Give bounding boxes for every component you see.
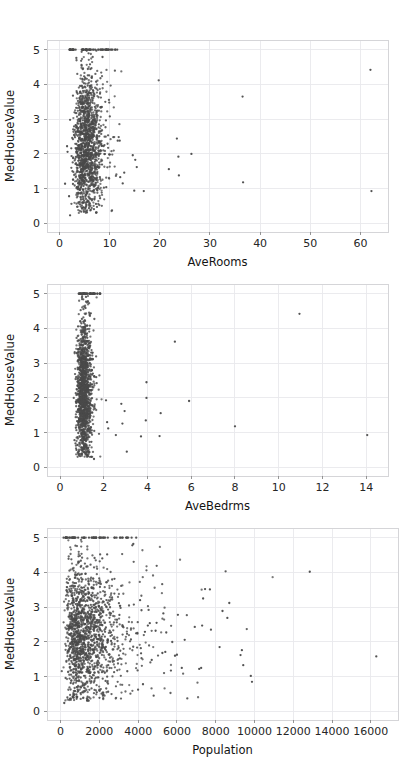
y-tick-label: 3 — [33, 357, 40, 370]
scatter-panel-avebedrms: 02468101214012345AveBedrmsMedHouseValue — [0, 262, 413, 512]
x-tick-label: 50 — [303, 237, 317, 250]
x-axis-title: Population — [192, 743, 252, 757]
y-tick-label: 5 — [33, 44, 40, 57]
y-axis-title: MedHouseValue — [3, 90, 17, 182]
x-tick-label: 14000 — [315, 725, 350, 738]
y-tick-label: 5 — [33, 288, 40, 301]
x-tick-label: 0 — [57, 481, 64, 494]
y-tick-label: 5 — [33, 532, 40, 545]
y-tick-label: 4 — [33, 322, 40, 335]
x-tick-label: 30 — [203, 237, 217, 250]
x-tick-label: 10000 — [237, 725, 272, 738]
y-tick-label: 2 — [33, 636, 40, 649]
y-tick-label: 2 — [33, 392, 40, 405]
x-tick-label: 60 — [353, 237, 367, 250]
scatter-panel-population: 0200040006000800010000120001400016000012… — [0, 506, 413, 761]
x-tick-label: 8 — [231, 481, 238, 494]
y-tick-label: 1 — [33, 183, 40, 196]
x-tick-label: 6000 — [163, 725, 191, 738]
y-tick-label: 3 — [33, 601, 40, 614]
x-tick-label: 14 — [359, 481, 373, 494]
x-tick-label: 0 — [56, 237, 63, 250]
y-tick-label: 4 — [33, 78, 40, 91]
x-tick-label: 4 — [144, 481, 151, 494]
y-tick-label: 4 — [33, 566, 40, 579]
x-tick-label: 4000 — [124, 725, 152, 738]
plot-area-1: 02468101214012345AveBedrmsMedHouseValue — [0, 262, 413, 512]
y-axis-title: MedHouseValue — [3, 334, 17, 426]
y-tick-label: 0 — [33, 217, 40, 230]
plot-area-2: 0200040006000800010000120001400016000012… — [0, 506, 413, 761]
x-tick-label: 20 — [153, 237, 167, 250]
x-tick-label: 6 — [188, 481, 195, 494]
y-tick-label: 1 — [33, 427, 40, 440]
x-tick-label: 40 — [253, 237, 267, 250]
x-tick-label: 10 — [272, 481, 286, 494]
y-axis-title: MedHouseValue — [3, 578, 17, 670]
x-tick-label: 16000 — [353, 725, 388, 738]
x-tick-label: 10 — [103, 237, 117, 250]
plot-background — [47, 284, 388, 476]
x-tick-label: 2000 — [85, 725, 113, 738]
scatter-panel-averooms: 0102030405060012345AveRoomsMedHouseValue — [0, 18, 413, 268]
x-tick-label: 2 — [100, 481, 107, 494]
x-tick-label: 0 — [57, 725, 64, 738]
figure-canvas: 0102030405060012345AveRoomsMedHouseValue… — [0, 0, 413, 773]
x-tick-label: 8000 — [202, 725, 230, 738]
plot-area-0: 0102030405060012345AveRoomsMedHouseValue — [0, 18, 413, 268]
y-tick-label: 2 — [33, 148, 40, 161]
x-tick-label: 12000 — [276, 725, 311, 738]
y-tick-label: 3 — [33, 113, 40, 126]
y-tick-label: 0 — [33, 461, 40, 474]
x-tick-label: 12 — [315, 481, 329, 494]
y-tick-label: 1 — [33, 671, 40, 684]
y-tick-label: 0 — [33, 705, 40, 718]
